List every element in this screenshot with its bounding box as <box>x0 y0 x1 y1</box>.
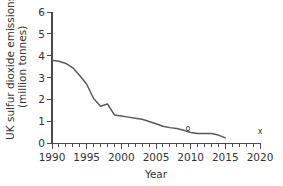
x-tick-label-1995: 1995 <box>73 151 100 163</box>
x-tick-label-2010: 2010 <box>177 151 204 163</box>
sulfur-dioxide-line-chart: UK sulfur dioxide emissions (million ton… <box>0 0 283 186</box>
chart-container: UK sulfur dioxide emissions (million ton… <box>0 0 283 186</box>
y-tick-label-3: 3 <box>38 72 45 84</box>
y-tick-label-5: 5 <box>38 28 45 40</box>
x-tick-label-2000: 2000 <box>108 151 135 163</box>
y-axis-label-line2: (million tonnes) <box>16 26 28 108</box>
y-tick-label-0: 0 <box>38 137 45 149</box>
y-tick-label-2: 2 <box>38 93 45 105</box>
y-tick-label-1: 1 <box>38 115 45 127</box>
marker-x: x <box>258 127 263 136</box>
x-tick-label-2015: 2015 <box>212 151 239 163</box>
y-axis-label-line1: UK sulfur dioxide emissions <box>4 0 16 140</box>
y-axis-label: UK sulfur dioxide emissions (million ton… <box>4 0 28 140</box>
emissions-line-series <box>52 60 225 138</box>
x-axis-tick-labels: 1990 1995 2000 2005 2010 2015 2020 <box>39 151 274 163</box>
x-tick-label-2020: 2020 <box>247 151 274 163</box>
x-tick-label-2005: 2005 <box>143 151 170 163</box>
y-tick-label-4: 4 <box>38 50 45 62</box>
y-axis <box>47 12 52 144</box>
marker-o: o <box>185 124 190 133</box>
chart-annotations: ox <box>185 124 262 136</box>
y-tick-label-6: 6 <box>38 6 45 18</box>
x-axis-ticks <box>52 143 260 149</box>
y-axis-tick-labels: 6 5 4 3 2 1 0 <box>38 6 45 149</box>
x-tick-label-1990: 1990 <box>39 151 66 163</box>
x-axis-title: Year <box>144 168 168 180</box>
